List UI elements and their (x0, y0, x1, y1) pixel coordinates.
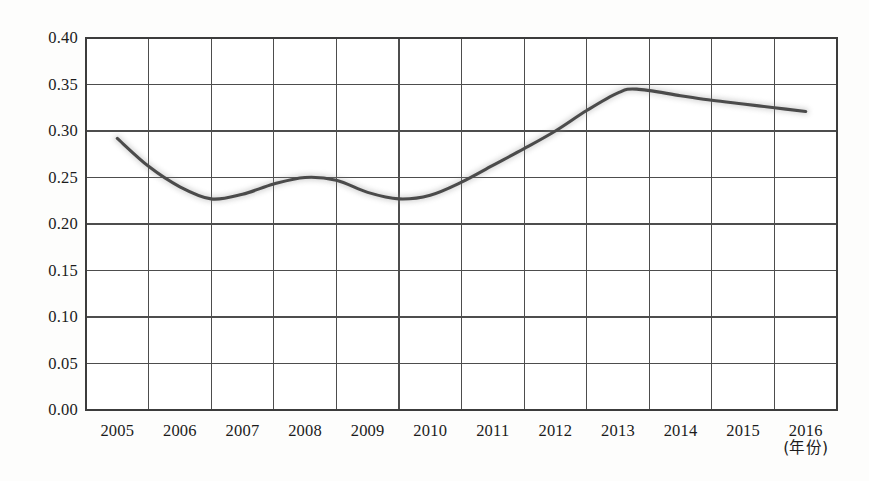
y-axis-tick-label: 0.15 (22, 263, 78, 280)
x-axis-tick-label: 2016(年份) (761, 422, 851, 458)
y-axis-tick-label: 0.10 (22, 309, 78, 326)
chart-figure: 0.400.350.300.250.200.150.100.050.00 200… (0, 0, 869, 481)
y-axis-tick-labels: 0.400.350.300.250.200.150.100.050.00 (18, 0, 78, 481)
y-axis-tick-label: 0.40 (22, 30, 78, 47)
y-axis-tick-label: 0.20 (22, 216, 78, 233)
y-axis-tick-label: 0.30 (22, 123, 78, 140)
y-axis-tick-label: 0.35 (22, 77, 78, 94)
y-axis-tick-label: 0.25 (22, 170, 78, 187)
chart-plot-svg (0, 0, 869, 481)
y-axis-tick-label: 0.00 (22, 402, 78, 419)
x-axis-tick-year: 2016 (761, 422, 851, 440)
x-axis-unit-label: (年份) (761, 440, 851, 457)
y-axis-tick-label: 0.05 (22, 356, 78, 373)
